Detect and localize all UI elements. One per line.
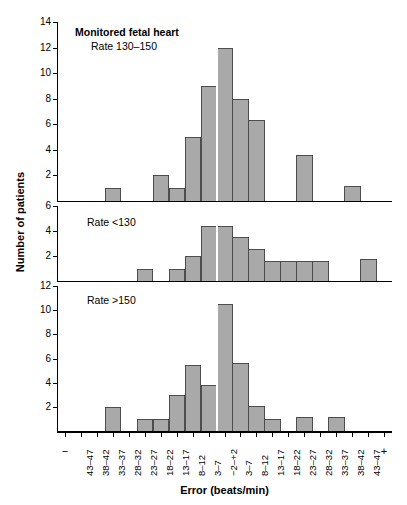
histogram-bar: [185, 256, 202, 281]
histogram-bar: [232, 363, 249, 431]
histogram-bar: [217, 226, 234, 281]
histogram-bar: [264, 261, 281, 281]
y-tick-label: 2: [45, 402, 51, 412]
histogram-bar: [153, 175, 170, 201]
panel-baseline: [57, 201, 392, 202]
histogram-bar: [232, 237, 249, 281]
center-divider: [216, 206, 218, 281]
center-divider: [216, 286, 218, 431]
x-tick-label: 33–37: [117, 450, 127, 476]
plot-area: 246Rate <130: [57, 206, 392, 282]
x-tick-label: 13–17: [181, 450, 191, 476]
histogram-bar: [248, 249, 265, 282]
histogram-bar: [137, 419, 154, 431]
histogram-bar: [232, 99, 249, 201]
center-divider: [216, 22, 218, 201]
y-tick-label: 4: [45, 378, 51, 388]
x-tick-label: −: [58, 446, 72, 457]
x-tick: [81, 432, 82, 437]
histogram-bar: [153, 419, 170, 431]
x-tick: [145, 432, 146, 437]
y-tick-label: 4: [45, 145, 51, 155]
x-tick: [272, 432, 273, 437]
histogram-bar: [169, 188, 186, 201]
x-tick: [65, 432, 66, 437]
y-tick-label: 10: [40, 68, 51, 78]
x-tick: [384, 432, 385, 437]
panel-label: Rate >150: [87, 294, 136, 306]
panel-label: Monitored fetal heart: [75, 26, 179, 38]
x-axis-title: Error (beats/min): [57, 484, 392, 496]
histogram-bar: [296, 417, 313, 432]
y-tick-label: 10: [40, 305, 51, 315]
histogram-bar: [312, 261, 329, 281]
x-tick-label: 43–47: [85, 450, 95, 476]
x-tick: [256, 432, 257, 437]
x-tick-label: 33–37: [340, 450, 350, 476]
x-tick-label: 13–17: [276, 450, 286, 476]
y-axis-title: Number of patients: [14, 152, 26, 292]
y-tick-label: 2: [45, 170, 51, 180]
x-tick: [129, 432, 130, 437]
panel-label: Rate <130: [87, 216, 136, 228]
panel-baseline: [57, 281, 392, 282]
x-tick-label: 18–22: [165, 450, 175, 476]
y-tick-label: 2: [45, 251, 51, 261]
panel-sublabel: Rate 130–150: [91, 40, 157, 52]
y-tick-label: 6: [45, 354, 51, 364]
y-tick-label: 12: [40, 281, 51, 291]
x-tick: [288, 432, 289, 437]
panel-rate-130-150: 2468101214Monitored fetal heartRate 130–…: [57, 22, 392, 202]
histogram-bar: [217, 304, 234, 431]
x-tick-label: 23–27: [308, 450, 318, 476]
histogram-figure: Number of patients 2468101214Monitored f…: [0, 0, 407, 505]
x-tick: [209, 432, 210, 437]
x-tick: [97, 432, 98, 437]
histogram-bar: [296, 155, 313, 201]
plot-area: 2468101214Monitored fetal heartRate 130–…: [57, 22, 392, 202]
histogram-bar: [185, 365, 202, 431]
x-tick-label: +: [377, 446, 391, 457]
histogram-bar: [360, 259, 377, 282]
plot-area: 24681012Rate >150: [57, 286, 392, 432]
histogram-bar: [248, 120, 265, 201]
bar-group: [57, 286, 392, 431]
x-tick: [352, 432, 353, 437]
x-tick-label: 23–27: [149, 450, 159, 476]
x-tick-label: 28–32: [133, 450, 143, 476]
histogram-bar: [137, 269, 154, 282]
histogram-bar: [105, 188, 122, 201]
x-tick-label: 18–22: [292, 450, 302, 476]
x-tick: [225, 432, 226, 437]
histogram-bar: [280, 261, 297, 281]
histogram-bar: [185, 137, 202, 201]
x-tick: [336, 432, 337, 437]
x-tick-label: −2–+2: [229, 449, 239, 476]
x-tick: [161, 432, 162, 437]
histogram-bar: [248, 406, 265, 431]
x-tick-label: 38–42: [101, 450, 111, 476]
x-tick-label: 8–12: [197, 455, 207, 476]
y-tick-label: 6: [45, 119, 51, 129]
histogram-bar: [169, 269, 186, 282]
x-axis: −43–4738–4233–3728–3223–2718–2213–178–12…: [57, 432, 392, 433]
panel-rate-under-130: 246Rate <130: [57, 206, 392, 282]
histogram-bar: [169, 395, 186, 431]
x-tick-label: 28–32: [324, 450, 334, 476]
x-tick: [113, 432, 114, 437]
x-tick-label: 3–7: [244, 460, 254, 476]
x-tick-label: 38–42: [356, 450, 366, 476]
x-tick: [193, 432, 194, 437]
x-tick: [177, 432, 178, 437]
y-tick-label: 8: [45, 94, 51, 104]
histogram-bar: [217, 48, 234, 201]
x-tick-label: 3–7: [213, 460, 223, 476]
histogram-bar: [296, 261, 313, 281]
y-tick-label: 8: [45, 329, 51, 339]
histogram-bar: [344, 186, 361, 201]
histogram-bar: [105, 407, 122, 431]
histogram-bar: [328, 417, 345, 432]
panel-rate-over-150: 24681012Rate >150: [57, 286, 392, 432]
x-tick: [320, 432, 321, 437]
x-tick-label: 8–12: [260, 455, 270, 476]
